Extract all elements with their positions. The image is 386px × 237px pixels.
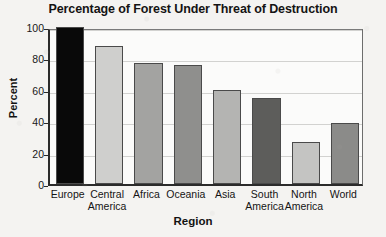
- x-axis-tick-label: Central America: [87, 189, 126, 212]
- bar: [134, 63, 162, 184]
- bar: [292, 142, 320, 184]
- bar: [331, 123, 359, 184]
- x-axis-title: Region: [0, 215, 386, 227]
- x-axis-tick-label: World: [324, 189, 363, 201]
- y-axis-tick-label: 0: [0, 179, 44, 191]
- bar: [174, 65, 202, 184]
- x-axis-tick-label: Asia: [206, 189, 245, 201]
- y-axis-tick-mark: [44, 186, 48, 187]
- x-axis-tick-label: South America: [245, 189, 284, 212]
- bar: [95, 46, 123, 184]
- y-axis-tick-label: 60: [0, 85, 44, 97]
- x-axis-tick-label: Europe: [48, 189, 87, 201]
- bar: [56, 27, 84, 184]
- y-axis-tick-label: 80: [0, 53, 44, 65]
- y-axis-tick-label: 100: [0, 22, 44, 34]
- y-axis-tick-label: 20: [0, 148, 44, 160]
- chart-title: Percentage of Forest Under Threat of Des…: [0, 2, 386, 16]
- x-axis-tick-label: Africa: [127, 189, 166, 201]
- y-axis-tick-label: 40: [0, 116, 44, 128]
- x-axis-tick-label: Oceania: [166, 189, 205, 201]
- bar: [213, 90, 241, 184]
- x-axis-tick-label: North America: [284, 189, 323, 212]
- bar-chart-figure: Percentage of Forest Under Threat of Des…: [0, 0, 386, 237]
- plot-area: [48, 29, 363, 186]
- bar: [252, 98, 280, 184]
- gridline: [50, 30, 362, 31]
